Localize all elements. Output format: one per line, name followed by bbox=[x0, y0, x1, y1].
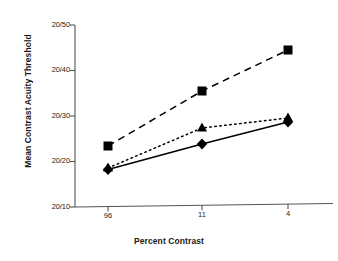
series-square-dashed-line bbox=[108, 50, 288, 146]
x-axis-tick-labels: 96 11 4 bbox=[0, 211, 338, 225]
series-square-markers bbox=[104, 46, 293, 151]
x-tick-label: 96 bbox=[91, 211, 125, 220]
x-axis-line bbox=[75, 204, 333, 208]
x-axis-title: Percent Contrast bbox=[0, 236, 338, 246]
x-tick-label: 11 bbox=[185, 210, 219, 219]
series-diamond-solid-line bbox=[108, 122, 288, 170]
contrast-acuity-line-chart: Mean Contrast Acuity Threshold 20/50 20/… bbox=[0, 0, 338, 261]
x-tick-label: 4 bbox=[271, 209, 305, 218]
y-axis-ticks bbox=[70, 25, 75, 207]
